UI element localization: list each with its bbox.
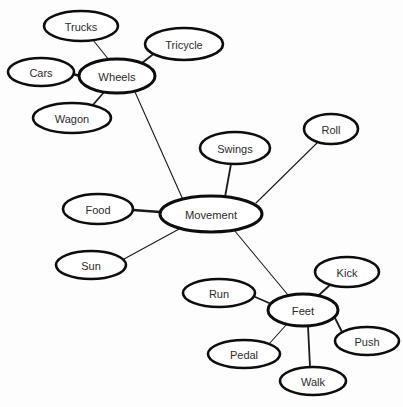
concept-map-canvas: TrucksTricycleCarsWheelsWagonRollSwingsF… — [0, 0, 403, 407]
edge-feet-push — [335, 318, 342, 332]
node-label-wagon: Wagon — [55, 113, 89, 125]
node-label-feet: Feet — [292, 305, 315, 317]
node-label-sun: Sun — [81, 260, 101, 272]
node-swings[interactable]: Swings — [200, 132, 270, 164]
node-pedal[interactable]: Pedal — [208, 340, 280, 368]
node-tricycle[interactable]: Tricycle — [145, 28, 223, 60]
node-label-pedal: Pedal — [230, 349, 258, 361]
node-kick[interactable]: Kick — [315, 257, 379, 287]
node-label-trucks: Trucks — [65, 21, 98, 33]
node-label-movement: Movement — [185, 209, 238, 221]
edge-feet-pedal — [269, 324, 287, 344]
node-label-food: Food — [85, 204, 110, 216]
node-trucks[interactable]: Trucks — [44, 11, 118, 41]
node-label-run: Run — [209, 288, 229, 300]
node-wagon[interactable]: Wagon — [33, 103, 111, 133]
node-run[interactable]: Run — [183, 279, 255, 307]
node-label-walk: Walk — [301, 376, 326, 388]
node-wheels[interactable]: Wheels — [79, 59, 155, 93]
node-label-roll: Roll — [322, 124, 341, 136]
node-label-wheels: Wheels — [98, 71, 136, 83]
node-label-push: Push — [354, 336, 379, 348]
node-label-kick: Kick — [337, 267, 358, 279]
node-label-cars: Cars — [29, 67, 53, 79]
node-cars[interactable]: Cars — [8, 58, 74, 86]
node-walk[interactable]: Walk — [280, 367, 346, 395]
node-label-tricycle: Tricycle — [165, 39, 202, 51]
edge-movement-sun — [124, 228, 181, 259]
node-movement[interactable]: Movement — [160, 196, 262, 232]
edge-wheels-trucks — [93, 40, 109, 60]
edge-movement-swings — [225, 164, 231, 197]
concept-map-svg: TrucksTricycleCarsWheelsWagonRollSwingsF… — [0, 0, 403, 407]
edge-wheels-movement — [135, 92, 184, 202]
node-roll[interactable]: Roll — [304, 114, 358, 144]
node-label-swings: Swings — [217, 143, 253, 155]
edge-movement-food — [133, 210, 160, 212]
node-feet[interactable]: Feet — [268, 294, 338, 326]
edge-feet-walk — [308, 326, 310, 367]
node-food[interactable]: Food — [63, 194, 133, 224]
nodes-layer: TrucksTricycleCarsWheelsWagonRollSwingsF… — [8, 11, 399, 395]
node-sun[interactable]: Sun — [56, 251, 126, 279]
node-push[interactable]: Push — [335, 327, 399, 355]
edge-feet-run — [253, 296, 269, 303]
